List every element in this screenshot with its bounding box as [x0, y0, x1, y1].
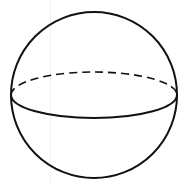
equator-front-arc	[11, 95, 177, 118]
equator-back-arc-dashed	[11, 72, 177, 95]
sphere-outline	[11, 12, 177, 178]
sphere-diagram	[0, 0, 186, 183]
